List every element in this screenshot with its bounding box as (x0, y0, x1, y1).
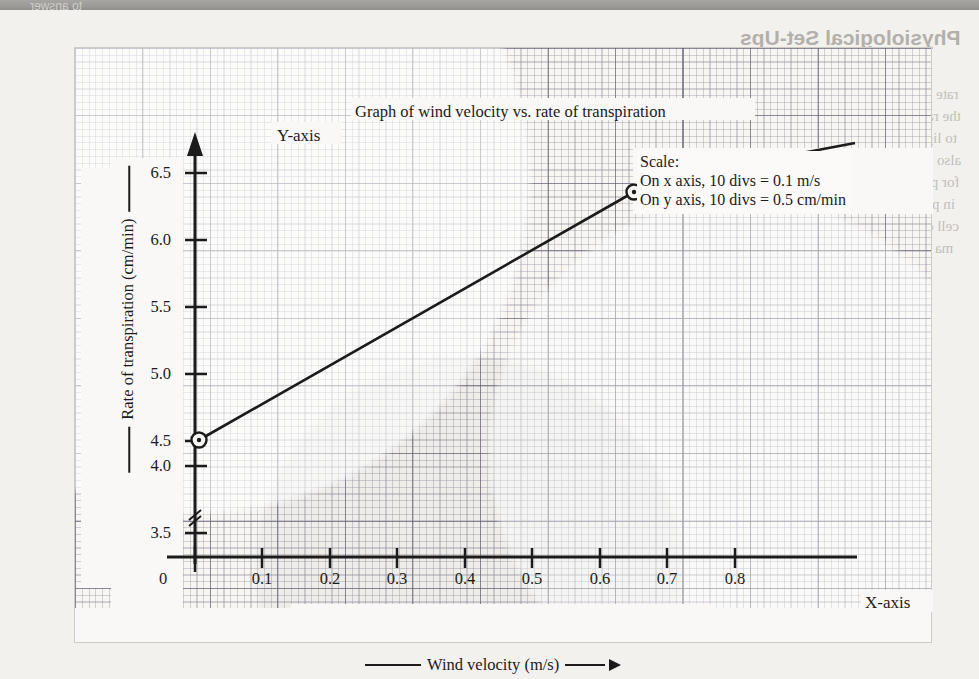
x-tick-label: 0.3 (377, 569, 417, 588)
x-axis-caption: X-axis (865, 593, 910, 613)
arrow-right-icon (609, 659, 621, 671)
y-tick-label: 3.5 (127, 523, 171, 542)
x-tick-label: 0.7 (647, 569, 687, 588)
data-point-marker (192, 433, 207, 448)
x-tick-label: 0.4 (445, 569, 485, 588)
x-tick-label: 0.2 (310, 569, 350, 588)
x-tick-label: 0 (143, 569, 183, 588)
scale-note-box: Scale: On x axis, 10 divs = 0.1 m/s On y… (637, 151, 852, 213)
x-tick-label: 0.5 (512, 569, 552, 588)
y-axis-title: Rate of transpiration (cm/min) (118, 219, 137, 420)
chart-plot-area (75, 48, 931, 642)
graph-paper-chart: Graph of wind velocity vs. rate of trans… (75, 48, 931, 642)
page-top-shadow-band (0, 0, 979, 10)
scale-note-x: On x axis, 10 divs = 0.1 m/s (640, 172, 846, 191)
scale-note-heading: Scale: (640, 153, 846, 172)
scanned-page: to answer Physiological Set-Ups rate of … (0, 0, 979, 679)
x-axis-title: Wind velocity (m/s) (427, 655, 559, 675)
y-axis-caption: Y-axis (277, 126, 320, 146)
x-axis-title-wrap: Wind velocity (m/s) (365, 655, 621, 675)
chart-title: Graph of wind velocity vs. rate of trans… (355, 102, 666, 121)
x-title-trailing-line (565, 664, 605, 666)
x-title-leader-line (365, 664, 421, 666)
scale-note-y: On y axis, 10 divs = 0.5 cm/min (640, 191, 846, 210)
y-axis-title-wrap: Rate of transpiration (cm/min) (118, 243, 137, 473)
y-title-leader-left (128, 427, 130, 473)
y-title-leader-right (128, 166, 130, 212)
y-tick-label: 6.5 (127, 163, 171, 182)
y-axis-arrowhead (187, 132, 203, 156)
x-tick-label: 0.1 (242, 569, 282, 588)
x-tick-label: 0.8 (715, 569, 755, 588)
x-tick-label: 0.6 (580, 569, 620, 588)
